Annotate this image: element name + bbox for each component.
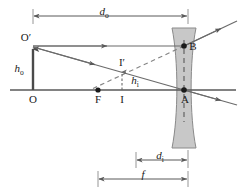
- label-object-base: O: [29, 93, 37, 105]
- label-focal-point: F: [95, 93, 101, 105]
- focal-point-marker: [95, 87, 100, 92]
- ray-through-center-arrowhead: [33, 47, 95, 65]
- label-point-a: A: [181, 93, 189, 105]
- label-focal-length: f: [141, 168, 146, 180]
- label-object-height: ho: [14, 62, 24, 77]
- point-b-marker: [181, 43, 187, 49]
- label-point-b: B: [189, 40, 196, 52]
- optics-ray-diagram: do O′ ho O F I I′ hi B A di f: [0, 0, 240, 191]
- label-image-distance: di: [156, 149, 164, 164]
- label-object-distance: do: [99, 5, 109, 20]
- point-a-marker: [181, 87, 187, 93]
- label-image-base: I: [120, 93, 124, 105]
- label-object-top: O′: [21, 31, 31, 43]
- diagram-canvas: do O′ ho O F I I′ hi B A di f: [0, 0, 240, 191]
- label-image-top: I′: [119, 56, 125, 68]
